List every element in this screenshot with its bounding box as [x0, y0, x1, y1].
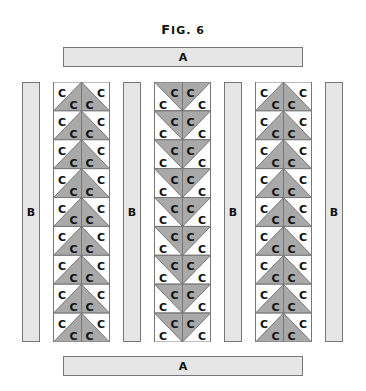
patch-label-c: C [271, 186, 279, 199]
figure-title: FIG. 6 [0, 22, 366, 37]
patch-label-c: C [198, 214, 206, 227]
goose-unit: CCCC [54, 82, 110, 112]
bottom-strip-a: A [63, 356, 303, 376]
patch-label-c: C [69, 157, 77, 170]
figure-title-initial: F [161, 22, 171, 37]
patch-label-c: C [159, 330, 167, 342]
patch-label-c: C [198, 157, 206, 170]
column-diagram: CCCCCCCCCCCCCCCCCCCCCCCCCCCCCCCCCCCC [53, 82, 110, 342]
patch-label-c: C [287, 99, 295, 112]
patch-label-c: C [85, 99, 93, 112]
side-strip-b-3: B [224, 82, 242, 342]
flying-geese-column-3: CCCCCCCCCCCCCCCCCCCCCCCCCCCCCCCCCCCC [255, 82, 312, 342]
patch-label-c: C [58, 145, 66, 158]
goose-unit: CCCC [155, 255, 211, 285]
patch-label-c: C [186, 174, 194, 187]
goose-unit: CCCC [155, 313, 211, 342]
patch-label-c: C [198, 243, 206, 256]
goose-unit: CCCC [256, 140, 312, 170]
side-strip-b-4: B [325, 82, 343, 342]
flying-geese-column-2: CCCCCCCCCCCCCCCCCCCCCCCCCCCCCCCCCCCC [154, 82, 211, 342]
patch-label-c: C [260, 203, 268, 216]
patch-label-c: C [159, 214, 167, 227]
side-strip-label: B [229, 206, 237, 219]
patch-label-c: C [170, 260, 178, 273]
patch-label-c: C [260, 87, 268, 100]
patch-label-c: C [58, 289, 66, 302]
patch-label-c: C [271, 301, 279, 314]
goose-unit: CCCC [54, 198, 110, 228]
patch-label-c: C [159, 157, 167, 170]
patch-label-c: C [170, 318, 178, 331]
goose-unit: CCCC [256, 111, 312, 141]
goose-unit: CCCC [155, 226, 211, 256]
side-strip-label: B [330, 206, 338, 219]
patch-label-c: C [170, 203, 178, 216]
patch-label-c: C [299, 260, 307, 273]
side-strip-label: B [27, 206, 35, 219]
patch-label-c: C [85, 330, 93, 342]
patch-label-c: C [58, 116, 66, 129]
patch-label-c: C [97, 318, 105, 331]
patch-label-c: C [186, 289, 194, 302]
patch-label-c: C [170, 87, 178, 100]
patch-label-c: C [186, 231, 194, 244]
top-strip-a: A [63, 47, 303, 67]
patch-label-c: C [299, 145, 307, 158]
patch-label-c: C [85, 157, 93, 170]
patch-label-c: C [271, 128, 279, 141]
patch-label-c: C [287, 128, 295, 141]
goose-unit: CCCC [256, 226, 312, 256]
patch-label-c: C [271, 272, 279, 285]
patch-label-c: C [159, 301, 167, 314]
patch-label-c: C [97, 174, 105, 187]
flying-geese-column-1: CCCCCCCCCCCCCCCCCCCCCCCCCCCCCCCCCCCC [53, 82, 110, 342]
patch-label-c: C [85, 128, 93, 141]
patch-label-c: C [198, 186, 206, 199]
patch-label-c: C [287, 301, 295, 314]
patch-label-c: C [271, 330, 279, 342]
patch-label-c: C [271, 157, 279, 170]
patch-label-c: C [198, 99, 206, 112]
patch-label-c: C [271, 99, 279, 112]
patch-label-c: C [260, 318, 268, 331]
patch-label-c: C [58, 87, 66, 100]
patch-label-c: C [97, 289, 105, 302]
figure-title-rest: IG. 6 [171, 24, 205, 37]
patch-label-c: C [58, 203, 66, 216]
patch-label-c: C [299, 231, 307, 244]
goose-unit: CCCC [54, 255, 110, 285]
side-strip-b-2: B [123, 82, 141, 342]
side-strip-b-1: B [22, 82, 40, 342]
column-diagram: CCCCCCCCCCCCCCCCCCCCCCCCCCCCCCCCCCCC [154, 82, 211, 342]
column-diagram: CCCCCCCCCCCCCCCCCCCCCCCCCCCCCCCCCCCC [255, 82, 312, 342]
patch-label-c: C [69, 243, 77, 256]
patch-label-c: C [170, 174, 178, 187]
patch-label-c: C [69, 330, 77, 342]
patch-label-c: C [170, 289, 178, 302]
patch-label-c: C [186, 116, 194, 129]
patch-label-c: C [159, 186, 167, 199]
patch-label-c: C [260, 145, 268, 158]
patch-label-c: C [299, 318, 307, 331]
patch-label-c: C [58, 231, 66, 244]
goose-unit: CCCC [256, 169, 312, 199]
patch-label-c: C [287, 214, 295, 227]
patch-label-c: C [159, 243, 167, 256]
goose-unit: CCCC [155, 198, 211, 228]
top-strip-label: A [179, 51, 188, 64]
patch-label-c: C [58, 174, 66, 187]
patch-label-c: C [186, 318, 194, 331]
patch-label-c: C [271, 214, 279, 227]
patch-label-c: C [287, 272, 295, 285]
goose-unit: CCCC [54, 284, 110, 314]
patch-label-c: C [271, 243, 279, 256]
patch-label-c: C [85, 272, 93, 285]
patch-label-c: C [69, 186, 77, 199]
patch-label-c: C [85, 301, 93, 314]
patch-label-c: C [287, 330, 295, 342]
patch-label-c: C [198, 128, 206, 141]
patch-label-c: C [170, 145, 178, 158]
goose-unit: CCCC [155, 169, 211, 199]
patch-label-c: C [58, 318, 66, 331]
